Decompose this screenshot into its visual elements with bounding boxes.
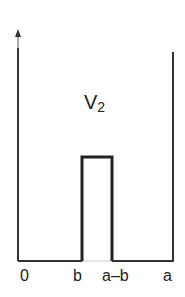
y-axis-arrow-icon xyxy=(15,29,21,37)
potential-diagram xyxy=(0,0,185,297)
potential-label: V2 xyxy=(84,92,105,112)
x-label-a-minus-b: a–b xyxy=(102,268,129,284)
x-label-a: a xyxy=(163,268,172,284)
potential-label-main: V xyxy=(84,91,97,113)
x-label-0: 0 xyxy=(20,268,29,284)
x-label-b: b xyxy=(73,268,82,284)
potential-label-sub: 2 xyxy=(97,99,105,115)
barrier xyxy=(82,157,112,261)
